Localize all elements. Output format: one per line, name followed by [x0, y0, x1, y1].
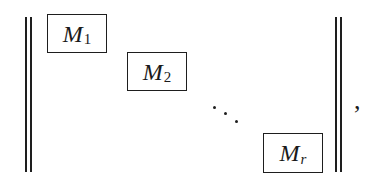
block-symbol: M	[280, 141, 300, 165]
block-subscript: r	[301, 151, 307, 168]
right-norm-bar-outer	[340, 17, 342, 172]
left-norm-bar-outer	[25, 17, 27, 172]
trailing-comma: ,	[354, 88, 361, 114]
ellipsis-dot	[213, 106, 216, 109]
left-norm-bar-inner	[30, 17, 32, 172]
block-mr: Mr	[263, 133, 323, 173]
ellipsis-dot	[235, 120, 238, 123]
block-symbol: M	[143, 60, 163, 84]
right-norm-bar-inner	[335, 17, 337, 172]
block-m2: M2	[127, 52, 187, 91]
ellipsis-dot	[224, 112, 227, 115]
block-subscript: 2	[164, 69, 172, 86]
block-m1: M1	[47, 14, 107, 53]
block-subscript: 1	[84, 31, 92, 48]
block-symbol: M	[63, 22, 83, 46]
